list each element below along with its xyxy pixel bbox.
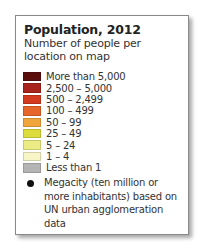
legend-item: 500 – 2,499: [23, 94, 126, 105]
megacity-dot-icon: [27, 180, 34, 187]
color-swatch: [23, 106, 41, 116]
legend-item-label: 1 – 4: [46, 151, 69, 162]
legend-item: 25 – 49: [23, 128, 126, 139]
color-swatch: [23, 140, 41, 150]
legend-item-label: 100 – 499: [46, 105, 94, 116]
legend-item-label: Less than 1: [46, 162, 101, 173]
color-swatch: [23, 152, 41, 162]
legend-item: 5 – 24: [23, 139, 126, 150]
legend-megacity: Megacity (ten million or more inhabitant…: [23, 176, 184, 230]
legend-items: More than 5,000 2,500 – 5,000 500 – 2,49…: [23, 71, 126, 174]
color-swatch: [23, 118, 41, 128]
color-swatch: [23, 95, 41, 105]
legend-item: 2,500 – 5,000: [23, 82, 126, 93]
legend-item-label: 500 – 2,499: [46, 94, 103, 105]
color-swatch: [23, 129, 41, 139]
legend-item: Less than 1: [23, 162, 126, 173]
color-swatch: [23, 72, 41, 82]
legend-item-label: 25 – 49: [46, 128, 81, 139]
legend-item: More than 5,000: [23, 71, 126, 82]
legend-item-label: 2,500 – 5,000: [46, 83, 112, 94]
legend-item-label: 5 – 24: [46, 140, 75, 151]
legend-item: 1 – 4: [23, 151, 126, 162]
legend-item: 50 – 99: [23, 117, 126, 128]
color-swatch: [23, 83, 41, 93]
legend-subtitle: Number of people per location on map: [24, 37, 184, 63]
megacity-label: Megacity (ten million or more inhabitant…: [44, 176, 184, 230]
legend-item-label: 50 – 99: [46, 117, 81, 128]
map-legend: Population, 2012 Number of people per lo…: [15, 15, 189, 235]
legend-item: 100 – 499: [23, 105, 126, 116]
legend-item-label: More than 5,000: [46, 71, 126, 82]
color-swatch: [23, 163, 41, 173]
legend-title: Population, 2012: [24, 22, 141, 37]
